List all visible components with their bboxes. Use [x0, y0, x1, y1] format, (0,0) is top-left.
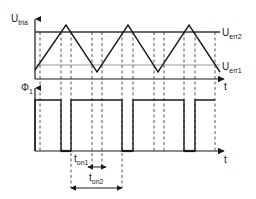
- ton2-label: ton2: [89, 172, 104, 185]
- top-t-label: t: [224, 81, 227, 92]
- pwm-pulse-train: [35, 100, 215, 151]
- bottom-plot: Φ1 t: [21, 82, 227, 165]
- uerr1-label: Uerr1: [222, 61, 242, 74]
- ton1-label: ton1: [74, 153, 89, 166]
- pwm-timing-diagram: Utria Uerr2 Uerr1 t Φ1 t ton1 ton2: [0, 0, 256, 199]
- utria-label: Utria: [11, 13, 28, 26]
- bottom-t-label: t: [224, 154, 227, 165]
- phi1-label: Φ1: [21, 82, 33, 95]
- uerr2-label: Uerr2: [222, 27, 242, 40]
- duration-annotations: ton1 ton2: [71, 153, 122, 188]
- top-plot: Utria Uerr2 Uerr1 t: [11, 13, 242, 92]
- dashed-guides: [40, 32, 215, 188]
